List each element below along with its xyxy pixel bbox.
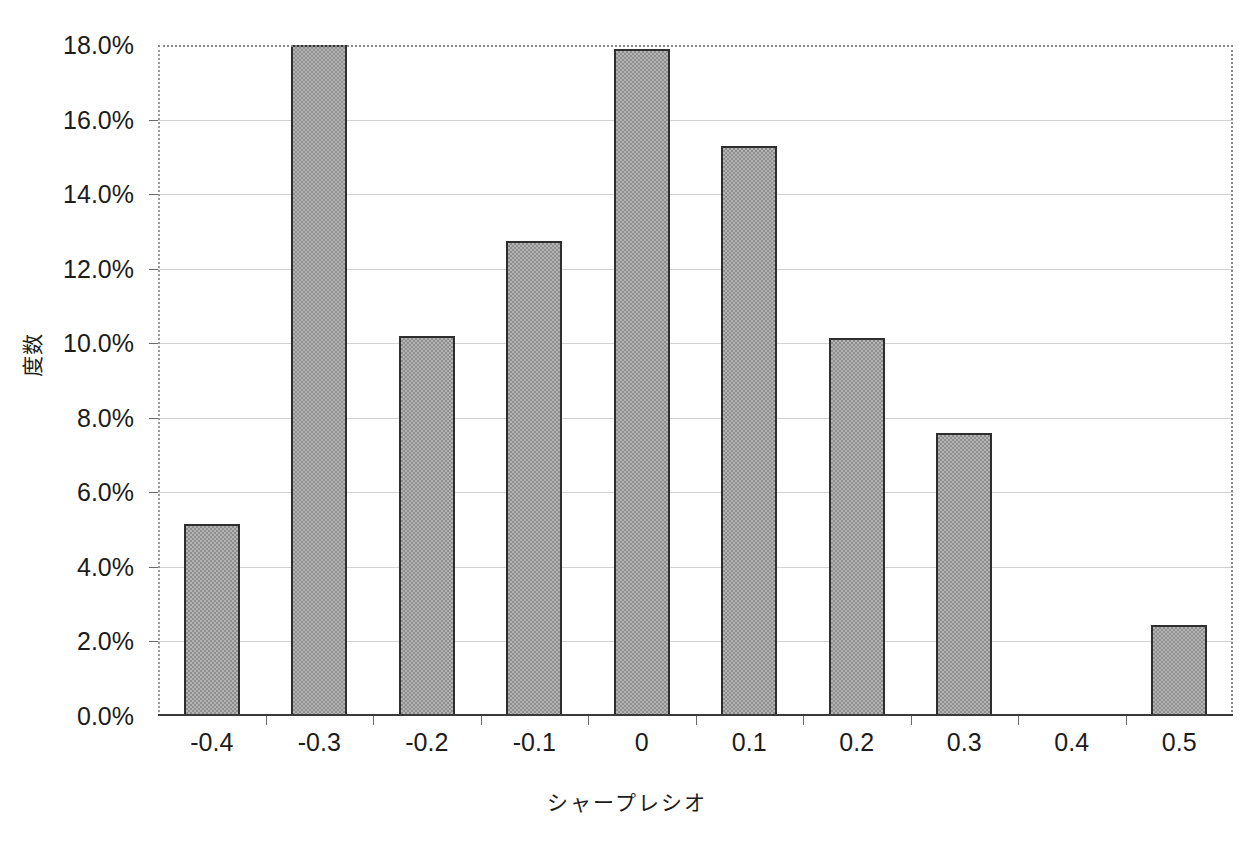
x-axis-tick-label: 0.4 xyxy=(1054,728,1089,757)
bar xyxy=(936,433,992,716)
y-axis-tick-mark xyxy=(149,269,158,270)
bar xyxy=(614,49,670,716)
bar xyxy=(399,336,455,716)
plot-border-left xyxy=(158,45,160,716)
bar xyxy=(1151,625,1207,716)
bar xyxy=(829,338,885,716)
x-axis-tick-mark xyxy=(373,716,374,725)
plot-border-right xyxy=(1231,45,1233,716)
x-axis-tick-label: -0.4 xyxy=(190,728,233,757)
x-axis-tick-label: -0.1 xyxy=(513,728,556,757)
y-axis-tick-label: 16.0% xyxy=(0,105,134,134)
x-axis-tick-label: -0.3 xyxy=(298,728,341,757)
bar xyxy=(506,241,562,716)
y-axis-tick-label: 18.0% xyxy=(0,31,134,60)
x-axis-tick-label: 0 xyxy=(635,728,649,757)
x-axis-tick-mark xyxy=(911,716,912,725)
bar xyxy=(721,146,777,716)
bar xyxy=(291,45,347,716)
x-axis-tick-label: 0.5 xyxy=(1162,728,1197,757)
x-axis-tick-mark xyxy=(266,716,267,725)
y-axis-tick-mark xyxy=(149,194,158,195)
y-axis-title: 度数 xyxy=(16,332,46,378)
x-axis-tick-mark xyxy=(588,716,589,725)
y-axis-tick-mark xyxy=(149,641,158,642)
y-axis-tick-mark xyxy=(149,120,158,121)
x-axis-tick-mark xyxy=(1018,716,1019,725)
x-axis-tick-label: 0.2 xyxy=(839,728,874,757)
x-axis-title: シャープレシオ xyxy=(0,786,1254,816)
x-axis-tick-mark xyxy=(803,716,804,725)
histogram-chart: 0.0%2.0%4.0%6.0%8.0%10.0%12.0%14.0%16.0%… xyxy=(0,0,1254,842)
y-axis-tick-label: 8.0% xyxy=(0,403,134,432)
y-axis-tick-mark xyxy=(149,492,158,493)
x-axis-tick-mark xyxy=(1126,716,1127,725)
y-axis-tick-label: 4.0% xyxy=(0,552,134,581)
y-axis-tick-label: 12.0% xyxy=(0,254,134,283)
x-axis-tick-label: 0.3 xyxy=(947,728,982,757)
y-axis-tick-label: 6.0% xyxy=(0,478,134,507)
y-axis-tick-label: 2.0% xyxy=(0,627,134,656)
x-axis-tick-mark xyxy=(696,716,697,725)
x-axis-tick-label: 0.1 xyxy=(732,728,767,757)
plot-area xyxy=(158,45,1233,716)
bar xyxy=(184,524,240,716)
y-axis-tick-label: 14.0% xyxy=(0,180,134,209)
y-axis-tick-mark xyxy=(149,567,158,568)
y-axis-tick-mark xyxy=(149,418,158,419)
y-axis-tick-label: 0.0% xyxy=(0,702,134,731)
x-axis-tick-label: -0.2 xyxy=(405,728,448,757)
x-axis-tick-mark xyxy=(481,716,482,725)
plot-border-top xyxy=(158,45,1233,47)
y-axis-tick-mark xyxy=(149,343,158,344)
